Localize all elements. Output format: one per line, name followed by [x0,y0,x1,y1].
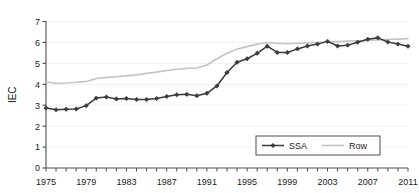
y-tick-label-5: 5 [35,59,40,69]
x-tick-label-1979: 1979 [76,177,96,187]
legend-label-row: Row [349,141,368,151]
y-axis-title: IEC [7,86,18,103]
x-tick-label-1991: 1991 [197,177,217,187]
data-point-marker [185,92,189,96]
data-point-marker [295,47,299,51]
data-point-marker [175,93,179,97]
data-point-marker [114,97,118,101]
y-axis-label: IEC [7,86,18,103]
x-tick-label-2003: 2003 [318,177,338,187]
data-point-marker [305,44,309,48]
x-tick-label-2007: 2007 [358,177,378,187]
y-axis-ticks: 01234567 [35,17,46,174]
data-point-marker [54,108,58,112]
y-tick-label-0: 0 [35,163,40,173]
line-chart: 01234567 1975197919831987199119951999200… [0,0,419,193]
chart-container: 01234567 1975197919831987199119951999200… [0,0,419,193]
x-tick-label-1975: 1975 [36,177,56,187]
legend-label-ssa: SSA [289,141,307,151]
data-point-marker [154,96,158,100]
x-tick-label-1987: 1987 [157,177,177,187]
y-tick-label-3: 3 [35,101,40,111]
y-tick-label-2: 2 [35,122,40,132]
y-tick-label-4: 4 [35,80,40,90]
x-tick-label-1983: 1983 [116,177,136,187]
x-tick-label-1999: 1999 [277,177,297,187]
data-point-marker [164,94,168,98]
data-point-marker [325,39,329,43]
data-point-marker [64,107,68,111]
data-point-marker [386,40,390,44]
series-line-row [46,39,408,84]
data-series-layer [44,36,410,112]
data-point-marker [335,44,339,48]
x-tick-label-1995: 1995 [237,177,257,187]
data-point-marker [345,43,349,47]
y-tick-label-1: 1 [35,142,40,152]
data-point-marker [134,97,138,101]
data-point-marker [124,96,128,100]
data-point-marker [285,50,289,54]
y-tick-label-7: 7 [35,17,40,27]
x-tick-label-2011: 2011 [398,177,417,187]
data-point-marker [44,106,48,110]
data-point-marker [104,95,108,99]
data-point-marker [406,44,410,48]
data-point-marker [74,107,78,111]
y-tick-label-6: 6 [35,38,40,48]
data-point-marker [195,94,199,98]
x-axis-ticks: 1975197919831987199119951999200320072011 [36,168,418,187]
chart-legend: SSARow [256,136,380,155]
data-point-marker [144,97,148,101]
